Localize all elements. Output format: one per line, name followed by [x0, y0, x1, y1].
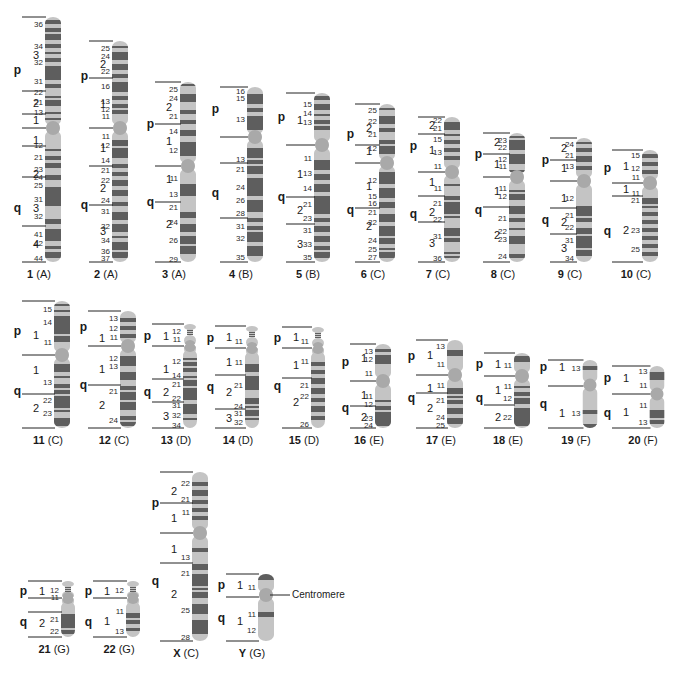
- dark-band: [180, 246, 196, 254]
- band-number: 13: [572, 409, 581, 418]
- dark-band: [311, 416, 325, 420]
- arm-label-q: q: [144, 385, 151, 399]
- dark-band: [45, 96, 61, 98]
- dark-band: [444, 202, 460, 214]
- chromosome-x: pq211222211113212528X (C): [152, 472, 208, 659]
- band-number: 12: [368, 144, 377, 153]
- dark-band: [314, 252, 330, 258]
- dark-band: [180, 236, 196, 244]
- dark-band: [45, 229, 61, 241]
- band-number: 24: [109, 416, 118, 425]
- band-number: 22: [565, 223, 574, 232]
- chromosome-label: 2 (A): [94, 268, 118, 280]
- band-number: 11: [182, 508, 191, 517]
- dark-band: [379, 214, 395, 222]
- chromosome-label: 5 (B): [296, 268, 320, 280]
- band-number: 13: [572, 364, 581, 373]
- dark-band: [45, 52, 61, 54]
- band-number: 21: [368, 130, 377, 139]
- centromere: [181, 159, 195, 173]
- chromosome-18: pq1121111122218 (E): [476, 353, 530, 446]
- dark-band: [444, 252, 460, 254]
- band-number: 11: [504, 382, 513, 391]
- chromosome-label: 18 (E): [493, 434, 523, 446]
- chromosome-body: [126, 581, 140, 637]
- band-number: 21: [169, 112, 178, 121]
- arm-label-q: q: [147, 195, 154, 209]
- centromere: [584, 379, 597, 392]
- dark-band: [379, 252, 395, 258]
- arm-label-p: p: [476, 357, 483, 371]
- dark-band: [120, 326, 136, 330]
- arm-label-p: p: [342, 355, 349, 369]
- band-number: 22: [368, 117, 377, 126]
- band-number: 14: [303, 184, 312, 193]
- dark-band: [247, 166, 263, 174]
- dark-band: [514, 398, 530, 404]
- region-number: 1: [623, 406, 629, 418]
- dark-band: [192, 500, 208, 504]
- band-number: 11: [632, 173, 641, 182]
- dark-band: [642, 198, 658, 204]
- arm-label-q: q: [274, 379, 281, 393]
- band-number: 11: [235, 358, 244, 367]
- chromosome-body: [180, 82, 196, 262]
- band-number: 32: [34, 58, 43, 67]
- dark-band: [180, 212, 196, 218]
- chromosome-y: pq11111112Y (G): [218, 574, 274, 659]
- dark-band: [45, 219, 61, 224]
- band-number: 21: [436, 396, 445, 405]
- band-number: 25: [631, 245, 640, 254]
- band-number: 13: [433, 148, 442, 157]
- arm-label-p: p: [81, 69, 88, 83]
- dark-band: [45, 28, 61, 32]
- band-number: 15: [433, 135, 442, 144]
- dark-band: [576, 156, 592, 162]
- region-number: 1: [163, 330, 169, 342]
- band-number: 21: [368, 208, 377, 217]
- arm-label-q: q: [14, 201, 21, 215]
- dark-band: [183, 358, 197, 360]
- dark-band: [54, 384, 70, 388]
- band-number: 31: [565, 236, 574, 245]
- arm-label-p: p: [410, 139, 417, 153]
- centromere: [515, 369, 529, 383]
- chromosome-body: [61, 581, 75, 637]
- dark-band: [514, 386, 530, 388]
- dark-band: [444, 156, 460, 160]
- dark-band: [183, 368, 197, 372]
- dark-band: [54, 364, 70, 372]
- band-number: 41: [34, 230, 43, 239]
- dark-band: [379, 172, 395, 184]
- dark-band: [247, 160, 263, 164]
- dark-band: [444, 216, 460, 218]
- band-number: 32: [101, 222, 110, 231]
- dark-band: [120, 392, 136, 400]
- dark-band: [192, 620, 208, 634]
- region-number: 1: [104, 615, 110, 627]
- chromosome-body: [642, 150, 658, 262]
- dark-band: [180, 110, 196, 114]
- band-number: 32: [236, 234, 245, 243]
- dark-band: [444, 134, 460, 136]
- region-number: 1: [171, 512, 177, 524]
- dark-band: [576, 218, 592, 222]
- dark-band: [314, 196, 330, 214]
- dark-band: [509, 194, 525, 200]
- centromere: [62, 592, 74, 604]
- band-number: 34: [101, 236, 110, 245]
- dark-band: [192, 604, 208, 614]
- arm-label-p: p: [540, 360, 547, 374]
- dark-band: [192, 592, 208, 598]
- dark-band: [54, 336, 70, 342]
- chromosome-6: pq21122522211212151621222425276 (C): [347, 104, 395, 280]
- region-number: 1: [104, 585, 110, 597]
- band-number: 21: [498, 214, 507, 223]
- band-number: 12: [169, 146, 178, 155]
- arm-label-p: p: [14, 324, 21, 338]
- chromosome-body: [112, 41, 128, 262]
- dark-band: [112, 148, 128, 158]
- region-number: 2: [163, 386, 169, 398]
- dark-band: [54, 390, 70, 394]
- band-number: 21: [181, 495, 190, 504]
